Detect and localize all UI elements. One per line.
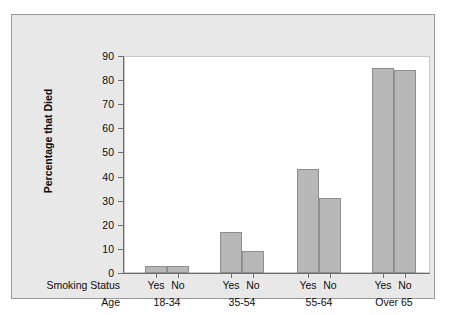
- y-tick-label-wrap: 20: [64, 220, 114, 230]
- y-tick-label: 30: [70, 196, 114, 207]
- y-tick-mark: [118, 273, 123, 274]
- x-sublabel-no: No: [385, 279, 425, 291]
- y-tick-label: 80: [70, 75, 114, 86]
- bar: [145, 266, 167, 273]
- y-tick-label: 0: [70, 268, 114, 279]
- y-tick-label: 60: [70, 123, 114, 134]
- y-axis-title: Percentage that Died: [42, 61, 54, 221]
- y-tick-label-wrap: 30: [64, 196, 114, 206]
- y-tick-mark: [118, 249, 123, 250]
- y-tick-label-wrap: 90: [64, 51, 114, 61]
- x-tick-mark: [330, 274, 331, 278]
- y-tick-mark: [118, 56, 123, 57]
- x-tick-mark: [253, 274, 254, 278]
- x-group-label: 35-54: [202, 296, 282, 308]
- y-tick-mark: [118, 201, 123, 202]
- x-tick-mark: [178, 274, 179, 278]
- x-tick-mark: [156, 274, 157, 278]
- axis-row-label-smoking-status: Smoking Status: [30, 279, 120, 291]
- y-tick-mark: [118, 104, 123, 105]
- y-tick-label-wrap: 70: [64, 99, 114, 109]
- y-tick-label-wrap: 40: [64, 172, 114, 182]
- y-tick-mark: [118, 177, 123, 178]
- bar: [394, 70, 416, 273]
- y-tick-label: 90: [70, 51, 114, 62]
- y-tick-label: 50: [70, 147, 114, 158]
- y-tick-label-wrap: 0: [64, 268, 114, 278]
- y-tick-mark: [118, 128, 123, 129]
- bar: [319, 198, 341, 273]
- x-tick-mark: [383, 274, 384, 278]
- y-tick-label-wrap: 50: [64, 147, 114, 157]
- y-tick-label: 40: [70, 172, 114, 183]
- chart-frame: Percentage that Died 0102030405060708090…: [11, 14, 435, 299]
- x-group-label: 18-34: [127, 296, 207, 308]
- x-sublabel-no: No: [310, 279, 350, 291]
- y-tick-label: 70: [70, 99, 114, 110]
- y-tick-mark: [118, 80, 123, 81]
- y-tick-mark: [118, 152, 123, 153]
- y-tick-label-wrap: 80: [64, 75, 114, 85]
- axis-row-label-age: Age: [30, 296, 120, 308]
- bar: [167, 266, 189, 273]
- x-sublabel-no: No: [233, 279, 273, 291]
- bar: [220, 232, 242, 273]
- y-axis-line: [123, 56, 124, 274]
- x-group-label: Over 65: [354, 296, 434, 308]
- y-tick-label: 20: [70, 220, 114, 231]
- y-tick-label-wrap: 60: [64, 123, 114, 133]
- bar: [242, 251, 264, 273]
- y-tick-label-wrap: 10: [64, 244, 114, 254]
- x-tick-mark: [405, 274, 406, 278]
- x-tick-mark: [231, 274, 232, 278]
- x-sublabel-no: No: [158, 279, 198, 291]
- y-tick-mark: [118, 225, 123, 226]
- chart-figure: Percentage that Died 0102030405060708090…: [0, 0, 456, 315]
- bar: [297, 169, 319, 273]
- y-tick-label: 10: [70, 244, 114, 255]
- x-group-label: 55-64: [279, 296, 359, 308]
- x-tick-mark: [308, 274, 309, 278]
- bar: [372, 68, 394, 273]
